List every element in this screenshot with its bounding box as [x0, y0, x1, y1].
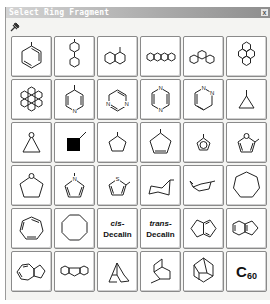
pyrene-icon: [228, 38, 265, 75]
title-bar[interactable]: Select Ring Fragment x: [6, 7, 270, 18]
fragment-anthracene[interactable]: [140, 36, 181, 77]
decalin-label: Decalin: [103, 229, 131, 240]
fragment-cyclopentane[interactable]: [97, 122, 138, 163]
fragment-indene[interactable]: [226, 208, 267, 249]
phenanthrene-icon: [185, 38, 222, 75]
coronene-icon: [13, 81, 50, 118]
fragment-cyclopentene[interactable]: [140, 122, 181, 163]
fragment-grid: N N N N N: [11, 36, 267, 292]
anthracene-icon: [142, 38, 179, 75]
fragment-pyrazine[interactable]: N N: [140, 79, 181, 120]
pyrazine-icon: N N: [142, 81, 179, 118]
fragment-naphthalene[interactable]: [97, 36, 138, 77]
cyclopentadienyl-icon: [185, 124, 222, 161]
pyrrole-icon: N: [56, 167, 93, 204]
fragment-pyrrole[interactable]: N: [54, 165, 95, 206]
cycloheptatriene-icon: [13, 210, 50, 247]
c60-label: C60: [236, 263, 257, 281]
fragment-cycloheptane[interactable]: [226, 165, 267, 206]
fragment-adamantane[interactable]: [183, 251, 224, 292]
fragment-pyrene[interactable]: [226, 36, 267, 77]
biphenyl-icon: [56, 38, 93, 75]
fragment-oxirane[interactable]: [11, 122, 52, 163]
benzene-icon: [13, 38, 50, 75]
naphthalene-icon: [99, 38, 136, 75]
svg-text:N: N: [210, 90, 214, 96]
svg-text:N: N: [159, 85, 163, 91]
fragment-cyclobutane[interactable]: [54, 122, 95, 163]
fragment-tetrahydrofuran[interactable]: [11, 165, 52, 206]
pyrimidine-icon: N N: [99, 81, 136, 118]
fragment-cyclopropane[interactable]: [226, 79, 267, 120]
azulene-icon: [13, 253, 50, 290]
fragment-pyridine[interactable]: N: [54, 79, 95, 120]
thiophene-icon: S: [99, 167, 136, 204]
cyclohexane-chair-icon: [142, 167, 179, 204]
cycloheptane-icon: [228, 167, 265, 204]
fragment-trans-decalin[interactable]: trans- Decalin: [140, 208, 181, 249]
fragment-pentalene[interactable]: [183, 208, 224, 249]
fragment-cyclohexane-boat[interactable]: [183, 165, 224, 206]
indene-icon: [228, 210, 265, 247]
svg-text:N: N: [202, 85, 206, 91]
tetrahydrofuran-icon: [13, 167, 50, 204]
fragment-azulene[interactable]: [11, 251, 52, 292]
cyclopropane-icon: [228, 81, 265, 118]
fragment-cycloheptatriene[interactable]: [11, 208, 52, 249]
pin-icon[interactable]: [9, 21, 21, 33]
svg-text:N: N: [159, 107, 163, 113]
close-button[interactable]: x: [261, 9, 268, 16]
pyridazine-icon: N N: [185, 81, 222, 118]
fragment-benzene[interactable]: [11, 36, 52, 77]
furan-icon: [228, 124, 265, 161]
fragment-pyridazine[interactable]: N N: [183, 79, 224, 120]
decalin-label: Decalin: [146, 229, 174, 240]
norbornane-icon: [99, 253, 136, 290]
pentalene-icon: [185, 210, 222, 247]
svg-text:N: N: [73, 176, 77, 182]
window-title: Select Ring Fragment: [9, 7, 109, 18]
adamantane-icon: [185, 253, 222, 290]
cyclohexane-boat-icon: [185, 167, 222, 204]
cyclobutane-icon: [56, 124, 93, 161]
cis-prefix: cis-: [111, 218, 125, 229]
oxirane-icon: [13, 124, 50, 161]
fragment-cyclooctane[interactable]: [54, 208, 95, 249]
fragment-thiophene[interactable]: S: [97, 165, 138, 206]
fragment-furan[interactable]: [226, 122, 267, 163]
fluorene-icon: [56, 253, 93, 290]
cyclopentene-icon: [142, 124, 179, 161]
cyclopentane-icon: [99, 124, 136, 161]
fragment-cyclohexane-chair[interactable]: [140, 165, 181, 206]
fragment-c60[interactable]: C60: [226, 251, 267, 292]
trans-prefix: trans-: [149, 218, 171, 229]
fragment-cyclopentadienyl[interactable]: [183, 122, 224, 163]
cyclooctane-icon: [56, 210, 93, 247]
fragment-cis-decalin[interactable]: cis- Decalin: [97, 208, 138, 249]
select-ring-fragment-window: Select Ring Fragment x: [5, 7, 270, 300]
svg-text:N: N: [106, 101, 110, 107]
pyridine-icon: N: [56, 81, 93, 118]
fragment-norbornane[interactable]: [97, 251, 138, 292]
svg-text:S: S: [116, 176, 120, 182]
bicyclooctane-icon: [142, 253, 179, 290]
fragment-phenanthrene[interactable]: [183, 36, 224, 77]
fragment-coronene[interactable]: [11, 79, 52, 120]
fragment-biphenyl[interactable]: [54, 36, 95, 77]
fragment-fluorene[interactable]: [54, 251, 95, 292]
svg-text:N: N: [73, 108, 77, 114]
fragment-bicyclooctane[interactable]: [140, 251, 181, 292]
fragment-pyrimidine[interactable]: N N: [97, 79, 138, 120]
svg-text:N: N: [125, 101, 129, 107]
